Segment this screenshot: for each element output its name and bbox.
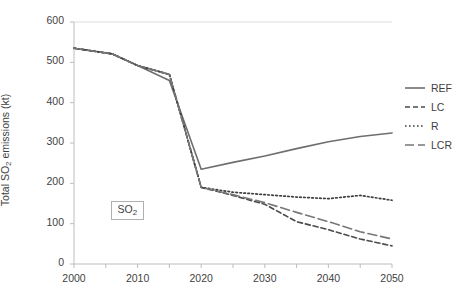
series-line-ref [74, 48, 392, 169]
legend-item-ref[interactable]: REF [404, 78, 452, 97]
annotation-text-main: SO [118, 203, 133, 215]
x-tick-label: 2040 [305, 272, 351, 284]
legend-label: LCR [431, 139, 452, 151]
legend-key-ref-icon [404, 83, 426, 93]
y-tick-label: 100 [24, 216, 64, 228]
y-tick-label: 200 [24, 175, 64, 187]
x-tick-label: 2000 [51, 272, 97, 284]
legend-label: R [431, 120, 439, 132]
legend-label: LC [431, 101, 444, 113]
legend-item-r[interactable]: R [404, 116, 452, 135]
legend-key-lc-icon [404, 102, 426, 112]
x-tick-label: 2020 [178, 272, 224, 284]
y-tick-label: 500 [24, 54, 64, 66]
legend-key-r-icon [404, 121, 426, 131]
legend-label: REF [431, 82, 452, 94]
legend-key-lcr-icon [404, 140, 426, 150]
y-tick-label: 300 [24, 135, 64, 147]
chart-figure: Total SO2 emissions (kt) SO2 REFLCRLCR 0… [0, 0, 468, 300]
y-tick-label: 0 [24, 256, 64, 268]
so2-annotation-box: SO2 [111, 201, 145, 220]
y-tick-label: 600 [24, 14, 64, 26]
y-tick-label: 400 [24, 95, 64, 107]
plot-area [0, 0, 468, 300]
annotation-text-subscript: 2 [133, 208, 137, 217]
series-line-r [74, 48, 392, 200]
legend-item-lc[interactable]: LC [404, 97, 452, 116]
legend-item-lcr[interactable]: LCR [404, 135, 452, 154]
x-tick-label: 2050 [369, 272, 415, 284]
chart-legend: REFLCRLCR [404, 78, 452, 154]
x-tick-label: 2010 [115, 272, 161, 284]
x-tick-label: 2030 [242, 272, 288, 284]
